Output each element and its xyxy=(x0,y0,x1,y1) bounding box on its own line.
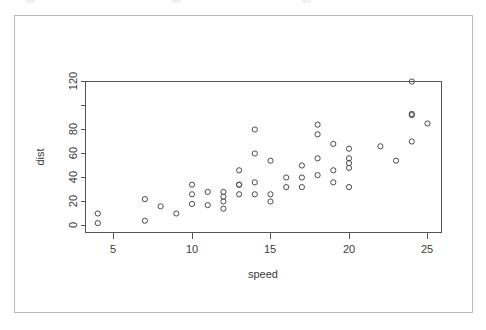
screenshot-root: 0 20 40 60 80 120 dist 5 10 15 xyxy=(0,0,486,330)
x-tick-label: 10 xyxy=(186,243,198,255)
data-point[interactable] xyxy=(189,201,194,206)
x-tick-label: 5 xyxy=(110,243,116,255)
data-point[interactable] xyxy=(252,192,257,197)
data-point[interactable] xyxy=(95,221,100,226)
y-axis-tick-labels: 0 20 40 60 80 120 xyxy=(67,72,79,228)
data-point[interactable] xyxy=(409,139,414,144)
y-tick-label: 40 xyxy=(67,171,79,183)
data-point[interactable] xyxy=(331,141,336,146)
x-tick-label: 15 xyxy=(264,243,276,255)
data-point[interactable] xyxy=(268,199,273,204)
y-axis-title: dist xyxy=(34,148,46,165)
x-tick-label: 25 xyxy=(421,243,433,255)
data-point[interactable] xyxy=(346,146,351,151)
data-point[interactable] xyxy=(331,180,336,185)
y-tick-label: 20 xyxy=(67,195,79,207)
data-point[interactable] xyxy=(425,121,430,126)
data-point[interactable] xyxy=(299,175,304,180)
data-point[interactable] xyxy=(158,204,163,209)
data-point[interactable] xyxy=(205,189,210,194)
data-point[interactable] xyxy=(268,192,273,197)
top-edge-artifact xyxy=(302,0,311,3)
scatter-plot[interactable]: 0 20 40 60 80 120 dist 5 10 15 xyxy=(15,16,472,312)
y-tick-label: 80 xyxy=(67,123,79,135)
data-point[interactable] xyxy=(252,180,257,185)
y-tick-label: 60 xyxy=(67,147,79,159)
x-axis-title: speed xyxy=(248,268,278,280)
data-point[interactable] xyxy=(95,211,100,216)
data-point[interactable] xyxy=(189,182,194,187)
data-point[interactable] xyxy=(189,192,194,197)
plot-frame xyxy=(86,82,442,233)
x-axis-tick-labels: 5 10 15 20 25 xyxy=(110,243,433,255)
data-point[interactable] xyxy=(315,173,320,178)
data-point[interactable] xyxy=(237,182,242,187)
data-points-layer[interactable] xyxy=(95,79,430,226)
x-axis-ticks xyxy=(114,233,428,239)
data-point[interactable] xyxy=(142,197,147,202)
plot-card: 0 20 40 60 80 120 dist 5 10 15 xyxy=(14,15,473,313)
data-point[interactable] xyxy=(331,168,336,173)
data-point[interactable] xyxy=(284,185,289,190)
y-axis-ticks xyxy=(81,82,86,226)
data-point[interactable] xyxy=(284,175,289,180)
data-point[interactable] xyxy=(315,122,320,127)
y-tick-label: 120 xyxy=(67,72,79,90)
data-point[interactable] xyxy=(268,158,273,163)
data-point[interactable] xyxy=(142,218,147,223)
data-point[interactable] xyxy=(378,144,383,149)
data-point[interactable] xyxy=(252,127,257,132)
x-tick-label: 20 xyxy=(343,243,355,255)
top-edge-artifact xyxy=(172,0,181,3)
data-point[interactable] xyxy=(315,156,320,161)
y-tick-label: 0 xyxy=(67,222,79,228)
data-point[interactable] xyxy=(237,168,242,173)
data-point[interactable] xyxy=(174,211,179,216)
data-point[interactable] xyxy=(315,132,320,137)
top-edge-artifact xyxy=(26,0,35,3)
data-point[interactable] xyxy=(299,163,304,168)
data-point[interactable] xyxy=(221,206,226,211)
data-point[interactable] xyxy=(237,192,242,197)
data-point[interactable] xyxy=(252,151,257,156)
data-point[interactable] xyxy=(394,158,399,163)
data-point[interactable] xyxy=(299,185,304,190)
data-point[interactable] xyxy=(205,203,210,208)
data-point[interactable] xyxy=(346,185,351,190)
